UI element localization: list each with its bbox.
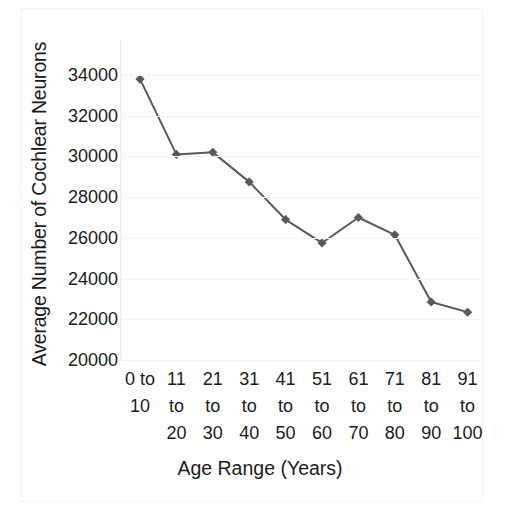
x-axis-title: Age Range (Years) (60, 457, 460, 480)
x-tick-label: 91to100 (441, 366, 495, 447)
x-tick-label-line: 100 (441, 420, 495, 447)
y-tick-label: 26000 (56, 229, 118, 247)
gridline (121, 156, 482, 157)
gridline (121, 197, 482, 198)
data-point-marker[interactable]: 11 to 20: 30100 (172, 150, 181, 159)
y-tick-label: 34000 (56, 66, 118, 84)
y-tick-label: 28000 (56, 188, 118, 206)
line-series-svg: 0 to 10: 3380011 to 20: 3010021 to 30: 3… (120, 40, 482, 360)
figure-border-left (20, 8, 21, 501)
x-tick-label-line: 91 (441, 366, 495, 393)
gridline (121, 319, 482, 320)
data-point-marker[interactable]: 81 to 90: 22850 (427, 297, 436, 306)
y-tick-label: 24000 (56, 270, 118, 288)
y-axis-title: Average Number of Cochlear Neurons (22, 4, 56, 404)
x-tick-label-line: to (441, 393, 495, 420)
gridline (121, 360, 482, 361)
y-axis-tick-labels: 2000022000240002600028000300003200034000 (56, 0, 118, 522)
data-point-marker[interactable]: 91 to 100: 22350 (463, 308, 472, 317)
y-tick-label: 22000 (56, 310, 118, 328)
gridline (121, 238, 482, 239)
y-tick-label: 20000 (56, 351, 118, 369)
y-tick-label: 30000 (56, 147, 118, 165)
y-tick-label: 32000 (56, 107, 118, 125)
gridline (121, 279, 482, 280)
x-axis-tick-labels: 0 to1011to2021to3031to4041to5051to6061to… (120, 366, 482, 452)
chart-figure: Average Number of Cochlear Neurons 20000… (0, 0, 505, 522)
gridline (121, 116, 482, 117)
series-line (140, 79, 468, 312)
gridline (121, 75, 482, 76)
plot-area: 0 to 10: 3380011 to 20: 3010021 to 30: 3… (120, 40, 482, 360)
